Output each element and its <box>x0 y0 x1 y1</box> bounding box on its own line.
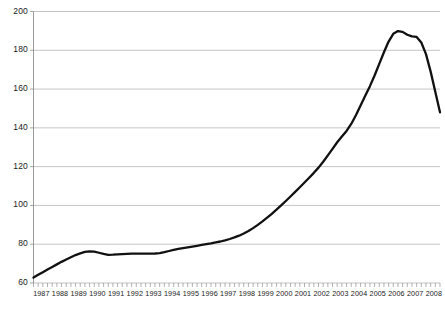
x-axis-tick-label: 2008 <box>423 290 445 298</box>
x-axis-tick-labels: 1987198819891990199119921993199419951996… <box>0 0 445 311</box>
chart-container: 6080100120140160180200 19871988198919901… <box>0 0 445 311</box>
